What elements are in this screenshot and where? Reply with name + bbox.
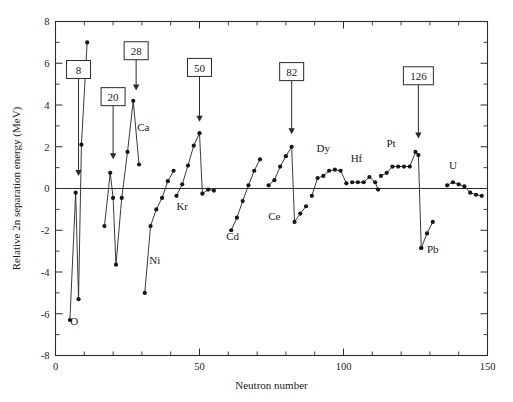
- magic-arrow-head-20: [110, 153, 116, 159]
- data-point: [339, 169, 343, 173]
- data-point: [160, 196, 164, 200]
- x-tick-label: 100: [336, 361, 352, 372]
- data-point: [396, 164, 400, 168]
- element-label-Dy: Dy: [317, 142, 331, 154]
- element-label-Ni: Ni: [149, 254, 160, 266]
- data-point: [154, 207, 158, 211]
- x-axis-title: Neutron number: [235, 379, 308, 391]
- data-point: [431, 220, 435, 224]
- magic-number-label-8: 8: [76, 64, 82, 76]
- data-point: [258, 157, 262, 161]
- data-point: [413, 150, 417, 154]
- data-point: [174, 194, 178, 198]
- data-point: [385, 171, 389, 175]
- data-point: [457, 182, 461, 186]
- y-tick-label: -4: [41, 267, 50, 278]
- data-point: [408, 164, 412, 168]
- data-point: [373, 180, 377, 184]
- data-point: [278, 164, 282, 168]
- magic-arrow-head-82: [288, 128, 294, 134]
- y-tick-label: -8: [41, 350, 50, 361]
- element-label-Hf: Hf: [351, 152, 363, 164]
- data-point: [304, 204, 308, 208]
- data-point: [390, 164, 394, 168]
- y-tick-label: 8: [44, 16, 49, 27]
- data-point: [480, 194, 484, 198]
- data-point: [186, 163, 190, 167]
- data-point: [74, 191, 78, 195]
- data-point: [79, 143, 83, 147]
- data-point: [321, 174, 325, 178]
- data-point: [166, 179, 170, 183]
- y-tick-label: 2: [44, 142, 49, 153]
- series-line-isotopic-chain-Pt: [381, 152, 421, 248]
- element-label-Kr: Kr: [176, 200, 188, 212]
- data-point: [362, 180, 366, 184]
- data-point: [143, 291, 147, 295]
- series-line-isotopic-chain-Ni: [145, 171, 174, 293]
- y-tick-label: -6: [41, 309, 50, 320]
- magic-number-label-50: 50: [194, 62, 206, 74]
- data-point: [197, 131, 201, 135]
- data-point: [272, 178, 276, 182]
- x-tick-label: 50: [194, 361, 205, 372]
- data-point: [252, 169, 256, 173]
- data-point: [462, 184, 466, 188]
- data-point: [206, 187, 210, 191]
- data-point: [102, 224, 106, 228]
- data-point: [445, 183, 449, 187]
- data-point: [246, 183, 250, 187]
- data-point: [267, 183, 271, 187]
- y-tick-label: 4: [44, 100, 50, 111]
- x-tick-label: 0: [53, 361, 58, 372]
- data-point: [356, 180, 360, 184]
- data-point: [468, 191, 472, 195]
- data-point: [241, 199, 245, 203]
- data-point: [416, 153, 420, 157]
- data-point: [315, 176, 319, 180]
- y-tick-label: 0: [44, 183, 49, 194]
- y-tick-label: -2: [41, 225, 50, 236]
- element-label-Ca: Ca: [137, 121, 149, 133]
- x-tick-label: 150: [480, 361, 496, 372]
- element-label-U: U: [449, 159, 457, 171]
- data-point: [419, 246, 423, 250]
- data-point: [333, 168, 337, 172]
- data-point: [402, 164, 406, 168]
- element-label-Ce: Ce: [268, 210, 280, 222]
- data-point: [350, 180, 354, 184]
- magic-number-label-20: 20: [108, 91, 120, 103]
- data-point: [376, 187, 380, 191]
- series-line-isotopic-chain-Ca: [104, 101, 139, 265]
- element-label-Pb: Pb: [427, 243, 439, 255]
- y-tick-label: 6: [44, 58, 49, 69]
- data-point: [474, 193, 478, 197]
- chart-container: -8-6-4-202468050100150OCaNiKrCdCeDyHfPtP…: [0, 0, 513, 402]
- data-point: [212, 188, 216, 192]
- data-point: [125, 150, 129, 154]
- data-point: [310, 194, 314, 198]
- magic-arrow-head-28: [133, 84, 139, 90]
- data-point: [137, 162, 141, 166]
- data-point: [171, 169, 175, 173]
- data-point: [344, 181, 348, 185]
- magic-arrow-head-50: [196, 116, 202, 122]
- magic-arrow-head-126: [415, 132, 421, 138]
- data-point: [114, 263, 118, 267]
- data-point: [425, 231, 429, 235]
- data-point: [200, 192, 204, 196]
- data-point: [284, 154, 288, 158]
- element-label-Cd: Cd: [226, 230, 239, 242]
- data-point: [379, 174, 383, 178]
- data-point: [451, 180, 455, 184]
- data-point: [111, 196, 115, 200]
- data-point: [108, 171, 112, 175]
- data-point: [292, 220, 296, 224]
- data-point: [327, 169, 331, 173]
- data-point: [192, 144, 196, 148]
- data-point: [298, 211, 302, 215]
- data-point: [131, 99, 135, 103]
- data-point: [235, 216, 239, 220]
- magic-number-label-82: 82: [286, 66, 297, 78]
- data-point: [148, 224, 152, 228]
